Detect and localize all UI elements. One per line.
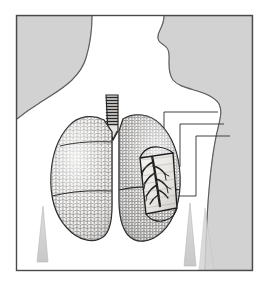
lungs-anatomy-figure <box>0 0 266 287</box>
illustration-canvas: Human Lungs in Thorax <box>0 0 266 287</box>
